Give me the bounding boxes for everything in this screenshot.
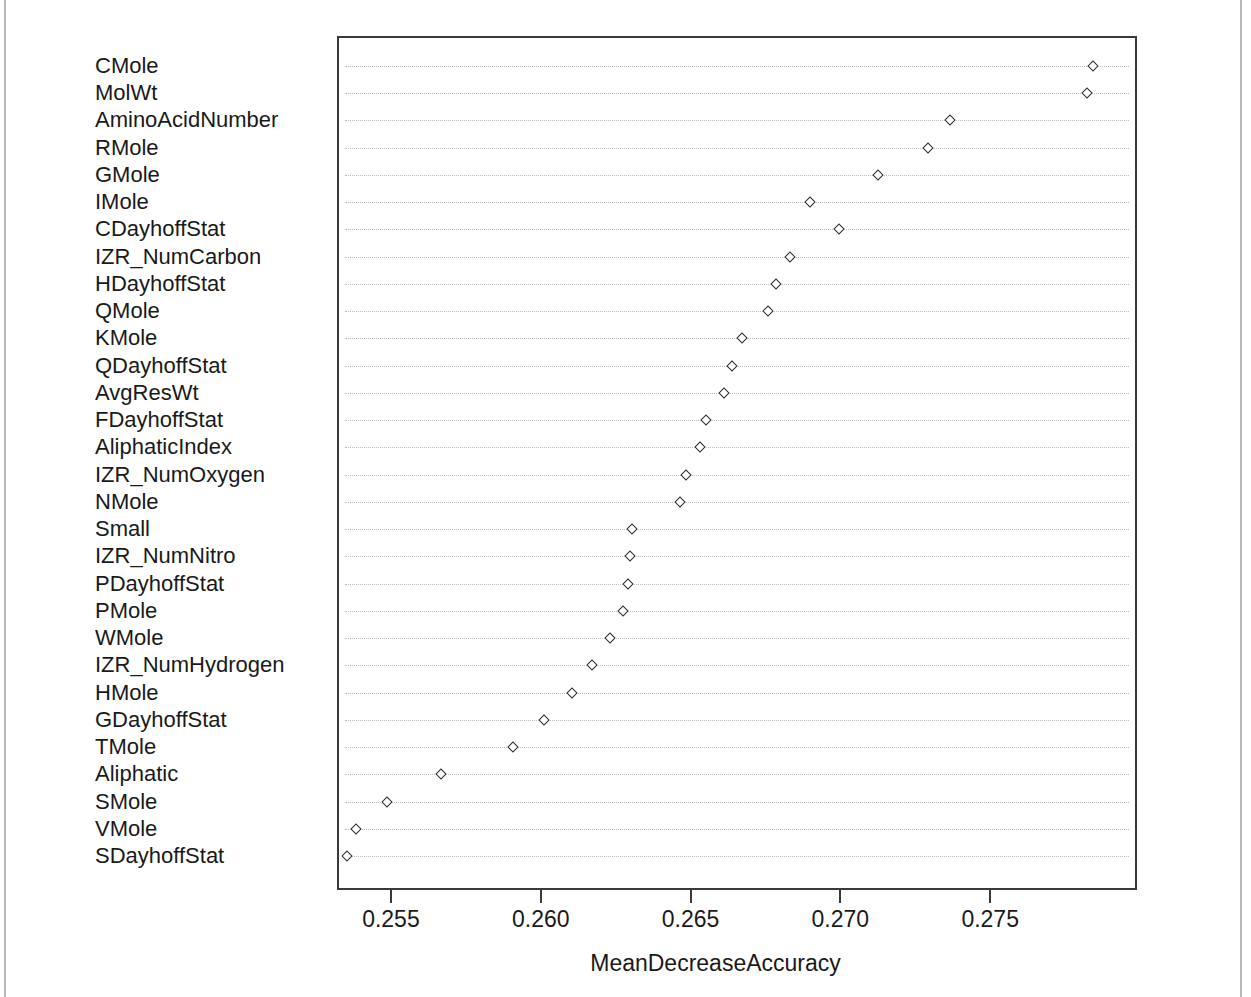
category-label: GDayhoffStat <box>95 709 227 731</box>
x-axis-tick <box>390 890 392 903</box>
gridline <box>345 856 1129 857</box>
category-label: CMole <box>95 55 159 77</box>
category-label: AvgResWt <box>95 382 199 404</box>
gridline <box>345 393 1129 394</box>
gridline <box>345 502 1129 503</box>
gridline <box>345 638 1129 639</box>
x-axis-tick <box>540 890 542 903</box>
gridline <box>345 420 1129 421</box>
gridline <box>345 257 1129 258</box>
data-point-marker <box>342 850 353 861</box>
category-label: IZR_NumOxygen <box>95 464 265 486</box>
data-point-marker <box>873 169 884 180</box>
category-label: FDayhoffStat <box>95 409 223 431</box>
gridline <box>345 556 1129 557</box>
gridline <box>345 693 1129 694</box>
gridline <box>345 665 1129 666</box>
data-point-marker <box>762 306 773 317</box>
category-label: PMole <box>95 600 157 622</box>
data-point-marker <box>680 469 691 480</box>
category-label: HDayhoffStat <box>95 273 225 295</box>
category-label: RMole <box>95 137 159 159</box>
category-label: AliphaticIndex <box>95 436 232 458</box>
data-point-marker <box>805 197 816 208</box>
gridline <box>345 202 1129 203</box>
gridline <box>345 611 1129 612</box>
gridline <box>345 720 1129 721</box>
page-canvas: CMoleMolWtAminoAcidNumberRMoleGMoleIMole… <box>0 0 1251 997</box>
data-point-marker <box>694 442 705 453</box>
gridline <box>345 829 1129 830</box>
category-label: IZR_NumNitro <box>95 545 236 567</box>
data-point-marker <box>784 251 795 262</box>
category-label: MolWt <box>95 82 157 104</box>
data-point-marker <box>736 333 747 344</box>
category-label: Aliphatic <box>95 763 178 785</box>
data-point-marker <box>1087 60 1098 71</box>
x-axis-tick <box>839 890 841 903</box>
data-point-marker <box>381 796 392 807</box>
data-point-marker <box>624 551 635 562</box>
category-label: IMole <box>95 191 149 213</box>
data-point-marker <box>727 360 738 371</box>
data-point-marker <box>922 142 933 153</box>
x-axis-tick-label: 0.255 <box>362 906 420 932</box>
category-label: CDayhoffStat <box>95 218 225 240</box>
gridline <box>345 747 1129 748</box>
x-axis-tick-label: 0.270 <box>812 906 870 932</box>
data-point-marker <box>945 115 956 126</box>
data-point-marker <box>626 523 637 534</box>
gridline <box>345 284 1129 285</box>
x-axis-title-text: MeanDecreaseAccuracy <box>590 950 841 976</box>
x-axis-tick <box>989 890 991 903</box>
data-point-marker <box>586 660 597 671</box>
category-label: SMole <box>95 791 157 813</box>
gridline <box>345 584 1129 585</box>
data-point-marker <box>538 714 549 725</box>
data-point-marker <box>507 741 518 752</box>
gridline <box>345 93 1129 94</box>
data-point-marker <box>771 278 782 289</box>
x-axis-tick-label: 0.260 <box>512 906 570 932</box>
variable-importance-plot: CMoleMolWtAminoAcidNumberRMoleGMoleIMole… <box>0 0 1251 997</box>
gridline <box>345 447 1129 448</box>
plot-area <box>337 36 1137 890</box>
x-axis-tick-label: 0.275 <box>961 906 1019 932</box>
gridline <box>345 148 1129 149</box>
data-point-marker <box>622 578 633 589</box>
gridline <box>345 529 1129 530</box>
category-label: AminoAcidNumber <box>95 109 278 131</box>
data-point-marker <box>617 605 628 616</box>
category-label: VMole <box>95 818 157 840</box>
x-axis-tick <box>690 890 692 903</box>
data-point-marker <box>674 496 685 507</box>
category-label: NMole <box>95 491 159 513</box>
category-label: SDayhoffStat <box>95 845 224 867</box>
category-label: KMole <box>95 327 157 349</box>
data-point-marker <box>700 414 711 425</box>
data-point-marker <box>604 632 615 643</box>
category-label: QDayhoffStat <box>95 355 227 377</box>
category-label: QMole <box>95 300 160 322</box>
gridline <box>345 66 1129 67</box>
gridline <box>345 774 1129 775</box>
category-label: IZR_NumCarbon <box>95 246 261 268</box>
category-label: PDayhoffStat <box>95 573 224 595</box>
data-point-marker <box>351 823 362 834</box>
x-axis-title: MeanDecreaseAccuracy <box>0 950 1251 977</box>
data-point-marker <box>834 224 845 235</box>
gridline <box>345 311 1129 312</box>
gridline <box>345 229 1129 230</box>
category-label: HMole <box>95 682 159 704</box>
data-point-marker <box>435 769 446 780</box>
category-label: Small <box>95 518 150 540</box>
gridline <box>345 802 1129 803</box>
category-label: GMole <box>95 164 160 186</box>
category-label: WMole <box>95 627 163 649</box>
data-point-marker <box>566 687 577 698</box>
data-point-marker <box>718 387 729 398</box>
gridline <box>345 120 1129 121</box>
gridline <box>345 475 1129 476</box>
category-label: IZR_NumHydrogen <box>95 654 285 676</box>
x-axis-tick-label: 0.265 <box>662 906 720 932</box>
